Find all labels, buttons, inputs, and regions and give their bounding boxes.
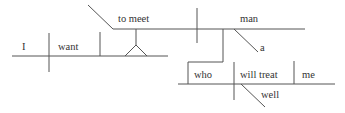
word-article: a (260, 43, 265, 54)
word-rel-verb: will treat (240, 70, 278, 81)
infinitive-slant (88, 5, 113, 29)
word-object: man (240, 14, 258, 25)
diagram-lines (0, 0, 345, 113)
word-subject: I (22, 42, 26, 53)
pedestal-triangle (125, 45, 147, 56)
word-rel-object: me (302, 70, 315, 81)
article-slant (234, 29, 258, 52)
word-adverb: well (261, 90, 279, 101)
word-infinitive: to meet (118, 14, 149, 25)
word-rel-pronoun: who (194, 70, 212, 81)
word-verb: want (58, 42, 78, 53)
